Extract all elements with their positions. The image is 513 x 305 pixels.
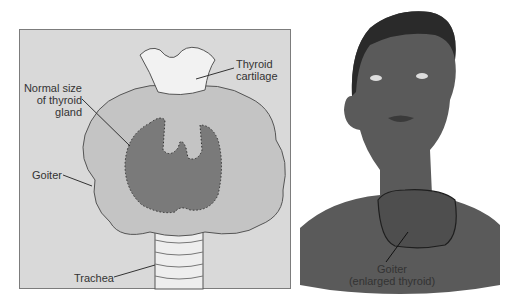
label-enlarged-goiter: Goiter (enlarged thyroid) — [342, 263, 442, 287]
trachea-illustration — [155, 228, 203, 289]
label-goiter: Goiter — [32, 169, 62, 181]
label-trachea: Trachea — [74, 272, 114, 284]
person-illustration — [300, 11, 500, 294]
label-normal-size: Normal size of thyroid gland — [20, 82, 82, 118]
label-thyroid-cartilage: Thyroid cartilage — [236, 58, 278, 82]
illustration — [0, 0, 513, 305]
